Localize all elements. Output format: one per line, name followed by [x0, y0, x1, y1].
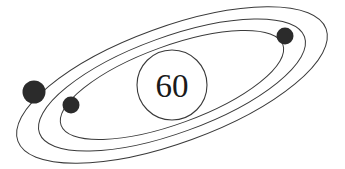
atom-diagram-canvas: 60 [0, 0, 345, 169]
nucleus-group: 60 [137, 50, 207, 120]
nucleus-label: 60 [156, 68, 189, 104]
electron-right [277, 28, 294, 45]
electron-left-large [23, 81, 46, 104]
atom-diagram-figure: 60 [0, 0, 345, 169]
electron-left-small [63, 97, 80, 114]
